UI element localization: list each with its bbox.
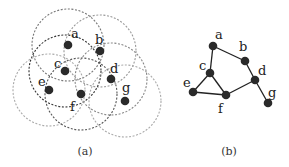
- network-diagram: abcdefg (a) abcdefg (b): [0, 0, 289, 167]
- panel-a-coverage-disks: abcdefg (a): [13, 9, 161, 158]
- node-g: [121, 97, 130, 106]
- node-a: [209, 42, 218, 51]
- panel-b-nodes: abcdefg: [183, 27, 276, 116]
- panel-b-graph: abcdefg (b): [183, 27, 276, 158]
- node-label-d: d: [110, 61, 118, 76]
- panel-a-nodes: abcdefg: [38, 26, 130, 114]
- node-label-e: e: [38, 74, 46, 89]
- node-label-a: a: [215, 27, 223, 42]
- node-label-g: g: [268, 85, 276, 100]
- node-label-b: b: [239, 39, 247, 54]
- node-label-f: f: [70, 99, 76, 114]
- node-c: [206, 69, 215, 78]
- graph-edges: [193, 46, 268, 103]
- edge-e-f: [193, 92, 226, 95]
- node-b: [96, 47, 105, 56]
- node-label-c: c: [54, 56, 61, 71]
- node-c: [61, 67, 70, 76]
- edge-f-d: [226, 80, 255, 95]
- node-e: [45, 86, 54, 95]
- node-label-a: a: [71, 26, 79, 41]
- node-label-f: f: [218, 101, 224, 116]
- node-label-b: b: [95, 32, 103, 47]
- node-label-d: d: [258, 63, 266, 78]
- range-circles: [13, 9, 161, 137]
- node-label-e: e: [183, 75, 191, 90]
- node-label-g: g: [122, 80, 130, 95]
- node-label-c: c: [199, 58, 206, 73]
- node-f: [222, 91, 231, 100]
- caption-b: (b): [221, 145, 237, 158]
- node-f: [77, 90, 86, 99]
- node-a: [64, 41, 73, 50]
- node-b: [241, 57, 250, 66]
- caption-a: (a): [77, 145, 92, 158]
